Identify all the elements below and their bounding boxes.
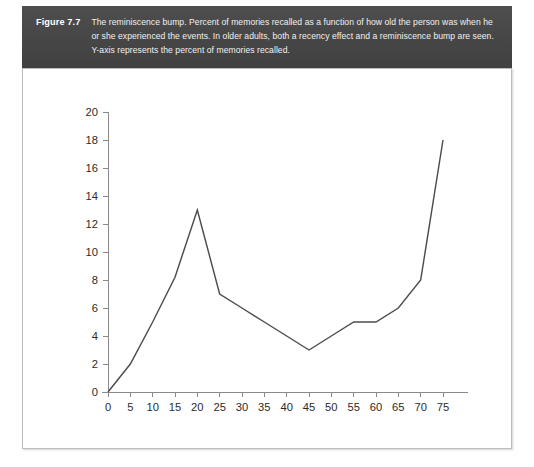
y-tick-label: 12: [86, 218, 98, 230]
y-tick-label: 6: [92, 302, 98, 314]
x-tick-label: 0: [105, 401, 111, 413]
x-tick-label: 70: [414, 401, 426, 413]
y-tick-label: 4: [92, 330, 98, 342]
y-tick-label: 16: [86, 162, 98, 174]
y-tick-label: 18: [86, 134, 98, 146]
x-tick-label: 55: [347, 401, 359, 413]
y-tick-label: 0: [92, 386, 98, 398]
data-series: [108, 140, 443, 392]
series-line-percent-recalled: [108, 140, 443, 392]
x-tick-label: 15: [169, 401, 181, 413]
x-tick-label: 25: [213, 401, 225, 413]
x-axis: 051015202530354045505560657075: [102, 392, 468, 413]
chart-container: 02468101214161820 0510152025303540455055…: [0, 0, 534, 467]
x-tick-label: 60: [370, 401, 382, 413]
line-chart: 02468101214161820 0510152025303540455055…: [0, 0, 534, 467]
x-tick-label: 20: [191, 401, 203, 413]
x-tick-label: 65: [392, 401, 404, 413]
x-tick-label: 50: [325, 401, 337, 413]
y-tick-label: 2: [92, 358, 98, 370]
y-tick-label: 14: [86, 190, 98, 202]
x-tick-label: 45: [303, 401, 315, 413]
y-axis: 02468101214161820: [86, 106, 108, 398]
x-tick-label: 5: [127, 401, 133, 413]
x-tick-label: 40: [280, 401, 292, 413]
x-tick-label: 75: [437, 401, 449, 413]
x-tick-label: 30: [236, 401, 248, 413]
y-tick-label: 10: [86, 246, 98, 258]
figure-root: Figure 7.7 The reminiscence bump. Percen…: [0, 0, 534, 467]
y-tick-label: 8: [92, 274, 98, 286]
x-tick-label: 35: [258, 401, 270, 413]
x-tick-label: 10: [146, 401, 158, 413]
y-tick-label: 20: [86, 106, 98, 118]
